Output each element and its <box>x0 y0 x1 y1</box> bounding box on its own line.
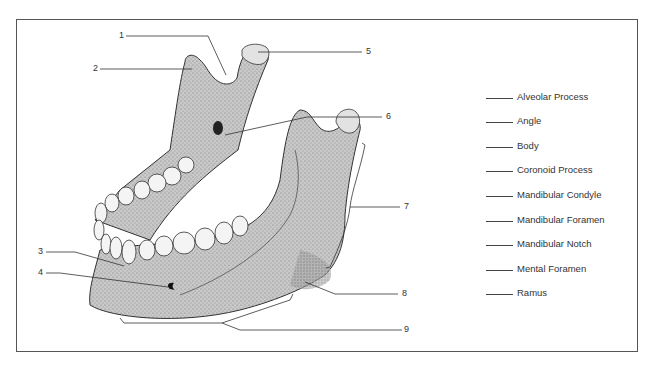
answer-blank[interactable] <box>486 270 513 271</box>
answer-blank[interactable] <box>486 245 513 246</box>
legend-item: Mandibular Foramen <box>486 201 605 226</box>
legend-label: Angle <box>517 115 541 127</box>
label-number-2: 2 <box>93 63 98 73</box>
legend-item: Body <box>486 127 605 152</box>
legend-label: Alveolar Process <box>517 91 588 103</box>
label-number-6: 6 <box>386 111 391 121</box>
answer-legend: Alveolar Process Angle Body Coronoid Pro… <box>486 78 605 299</box>
label-number-4: 4 <box>38 267 43 277</box>
answer-blank[interactable] <box>486 122 513 123</box>
answer-blank[interactable] <box>486 147 513 148</box>
answer-blank[interactable] <box>486 196 513 197</box>
legend-item: Ramus <box>486 275 605 300</box>
legend-label: Ramus <box>517 287 547 299</box>
label-number-5: 5 <box>366 46 371 56</box>
legend-item: Angle <box>486 103 605 128</box>
answer-blank[interactable] <box>486 221 513 222</box>
mandibular-foramen <box>213 121 223 135</box>
far-ramus <box>95 47 268 240</box>
legend-label: Mental Foramen <box>517 263 586 275</box>
legend-item: Alveolar Process <box>486 78 605 103</box>
label-number-8: 8 <box>402 288 407 298</box>
answer-blank[interactable] <box>486 294 513 295</box>
answer-blank[interactable] <box>486 171 513 172</box>
legend-label: Body <box>517 140 539 152</box>
legend-item: Mental Foramen <box>486 250 605 275</box>
answer-blank[interactable] <box>486 98 513 99</box>
legend-item: Mandibular Notch <box>486 226 605 251</box>
label-number-9: 9 <box>404 324 409 334</box>
legend-item: Mandibular Condyle <box>486 176 605 201</box>
leader-9 <box>222 323 402 330</box>
legend-label: Mandibular Condyle <box>517 189 602 201</box>
legend-label: Mandibular Foramen <box>517 214 605 226</box>
label-number-3: 3 <box>38 246 43 256</box>
legend-label: Coronoid Process <box>517 164 593 176</box>
label-number-1: 1 <box>119 30 124 40</box>
legend-item: Coronoid Process <box>486 152 605 177</box>
label-number-7: 7 <box>404 201 409 211</box>
legend-label: Mandibular Notch <box>517 238 591 250</box>
